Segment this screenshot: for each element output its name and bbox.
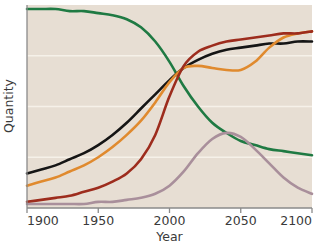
y-axis-title: Quantity	[1, 78, 16, 133]
x-axis-title: Year	[155, 229, 183, 244]
x-tick-label: 2100	[280, 213, 312, 228]
x-tick-label: 1900	[27, 213, 59, 228]
line-chart: 19001950200020502100 Year Quantity	[0, 0, 326, 247]
chart-container: 19001950200020502100 Year Quantity	[0, 0, 326, 247]
x-tick-label: 2050	[225, 213, 257, 228]
x-tick-label: 1950	[82, 213, 114, 228]
x-tick-label: 2000	[154, 213, 186, 228]
x-tick-labels: 19001950200020502100	[27, 213, 312, 228]
